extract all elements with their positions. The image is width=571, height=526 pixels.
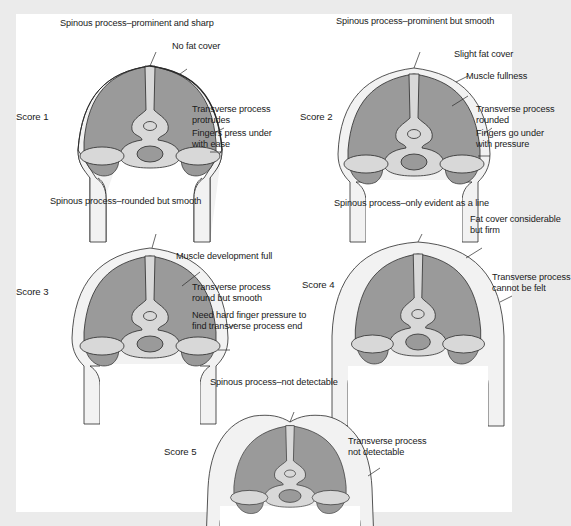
score-label-4: Score 4 (302, 279, 334, 290)
note-fingers-press-under: Fingers press under with ease (192, 128, 272, 150)
note-transverse-cannot-be-felt: Transverse process cannot be felt (492, 272, 571, 294)
spinous-label-score-4: Spinous process–only evident as a line (334, 198, 489, 209)
vertebra-score-3 (72, 248, 228, 426)
note-muscle-development-full: Muscle development full (176, 251, 272, 262)
diagram-canvas: Spinous process–prominent and sharp No f… (16, 14, 512, 512)
note-fingers-go-under: Fingers go under with pressure (476, 128, 544, 150)
note-fat-cover-considerable: Fat cover considerable but firm (470, 214, 561, 236)
vertebra-score-4 (332, 242, 504, 428)
note-need-hard-finger-pressure: Need hard finger pressure to find transv… (192, 310, 306, 332)
vertebra-score-1 (78, 66, 222, 242)
spinous-label-score-3: Spinous process–rounded but smooth (50, 196, 201, 207)
note-no-fat-cover: No fat cover (172, 41, 220, 52)
score-label-2: Score 2 (300, 111, 332, 122)
vertebra-score-5 (204, 415, 376, 526)
note-transverse-rounded: Transverse process rounded (476, 104, 555, 126)
note-slight-fat-cover: Slight fat cover (454, 49, 513, 60)
vertebra-score-2 (338, 68, 490, 244)
spinous-label-score-2: Spinous process–prominent but smooth (336, 16, 494, 27)
score-label-3: Score 3 (16, 286, 48, 297)
note-transverse-round-smooth: Transverse process round but smooth (192, 282, 271, 304)
score-label-5: Score 5 (164, 446, 196, 457)
spinous-label-score-1: Spinous process–prominent and sharp (60, 18, 214, 29)
score-label-1: Score 1 (16, 111, 48, 122)
note-transverse-protrudes: Transverse process protrudes (192, 104, 271, 126)
note-transverse-not-detectable: Transverse process not detectable (348, 436, 427, 458)
note-muscle-fullness: Muscle fullness (466, 71, 527, 82)
diagram-illustration (16, 14, 568, 526)
spinous-label-score-5: Spinous process–not detectable (210, 377, 338, 388)
